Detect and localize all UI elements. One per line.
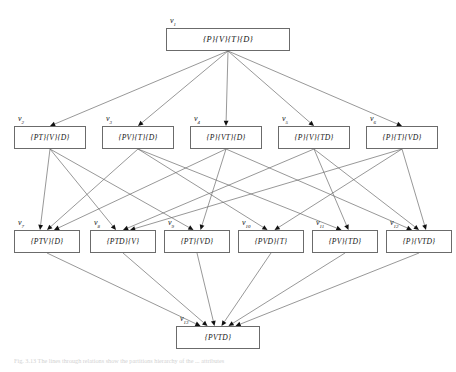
node-v2-text: {PT}{V}{D} [30, 133, 69, 142]
node-label-v6: v6 [370, 115, 376, 126]
node-label-v6-index: 6 [374, 120, 376, 125]
node-v10-text: {PVD}{T} [255, 237, 288, 246]
node-v7-text: {PTV}{D} [31, 237, 64, 246]
node-v8: {PTD}{V} [90, 230, 156, 253]
edge-layer [0, 0, 456, 372]
node-label-v13: v13 [180, 315, 189, 326]
node-v3-text: {PV}{T}{D} [118, 133, 157, 142]
node-label-v9: v9 [168, 219, 174, 230]
edge-v6-to-v10 [279, 149, 402, 227]
node-label-v8: v8 [94, 219, 100, 230]
edge-v4-to-v9 [202, 149, 226, 225]
node-label-v4-index: 4 [198, 120, 200, 125]
edge-v1-to-v2 [55, 51, 228, 124]
node-v12-text: {P}{VTD} [403, 237, 436, 246]
node-label-v2-index: 2 [22, 120, 24, 125]
node-label-v10-index: 10 [246, 224, 251, 229]
edge-v1-to-v3 [142, 51, 228, 123]
edge-v1-to-v5 [228, 51, 310, 123]
node-v12: {P}{VTD} [386, 230, 452, 253]
node-label-v13-index: 13 [184, 320, 189, 325]
node-v4-text: {P}{VT}{D} [206, 133, 245, 142]
node-v8-text: {PTD}{V} [107, 237, 140, 246]
node-v5-text: {P}{V}{TD} [294, 133, 333, 142]
node-v11: {PV}{TD} [312, 230, 378, 253]
node-v4: {P}{VT}{D} [190, 126, 262, 149]
figure-caption: Fig. 3.13 The lines through relations sh… [14, 357, 444, 365]
node-label-v11: v11 [316, 219, 324, 230]
node-v9-text: {PT}{VD} [181, 237, 214, 246]
node-v6: {P}{T}{VD} [366, 126, 438, 149]
node-v1: {P}{V}{T}{D} [166, 28, 290, 51]
node-v5: {P}{V}{TD} [278, 126, 350, 149]
node-label-v8-index: 8 [98, 224, 100, 229]
edge-v11-to-v13 [233, 253, 345, 323]
lattice-diagram: {P}{V}{T}{D}v1{PT}{V}{D}v2{PV}{T}{D}v3{P… [0, 0, 456, 372]
edge-v6-to-v8 [135, 149, 402, 229]
edge-v2-to-v7 [41, 149, 50, 225]
node-label-v5: v5 [282, 115, 288, 126]
node-label-v5-index: 5 [286, 120, 288, 125]
edge-v1-to-v6 [228, 51, 397, 124]
node-label-v1-index: 1 [174, 22, 176, 27]
edge-v4-to-v12 [226, 149, 407, 228]
node-v9: {PT}{VD} [164, 230, 230, 253]
edge-v3-to-v11 [138, 149, 337, 228]
node-label-v11-index: 11 [320, 224, 325, 229]
edge-v6-to-v12 [402, 149, 425, 225]
node-v10: {PVD}{T} [238, 230, 304, 253]
edge-v5-to-v8 [128, 149, 314, 228]
edge-v3-to-v7 [51, 149, 138, 227]
node-label-v1: v1 [170, 17, 176, 28]
node-label-v4: v4 [194, 115, 200, 126]
node-v13-text: {PVTD} [205, 333, 231, 342]
node-label-v10: v10 [242, 219, 251, 230]
node-v2: {PT}{V}{D} [14, 126, 86, 149]
node-v6-text: {P}{T}{VD} [382, 133, 421, 142]
edge-v10-to-v13 [224, 253, 271, 322]
edge-v9-to-v13 [197, 253, 213, 321]
node-label-v12: v12 [390, 219, 399, 230]
node-label-v7-index: 7 [22, 224, 24, 229]
node-label-v3: v3 [106, 115, 112, 126]
edge-v12-to-v13 [240, 253, 419, 324]
node-label-v2: v2 [18, 115, 24, 126]
edge-v7-to-v13 [47, 253, 196, 324]
node-label-v9-index: 9 [172, 224, 174, 229]
node-v1-text: {P}{V}{T}{D} [203, 35, 253, 44]
edge-v1-to-v4 [226, 51, 228, 121]
node-v3: {PV}{T}{D} [102, 126, 174, 149]
node-v13: {PVTD} [176, 326, 260, 349]
node-label-v3-index: 3 [110, 120, 112, 125]
edge-v2-to-v8 [50, 149, 113, 226]
node-label-v7: v7 [18, 219, 24, 230]
node-v7: {PTV}{D} [14, 230, 80, 253]
edge-v5-to-v12 [314, 149, 415, 227]
edge-v8-to-v13 [123, 253, 204, 323]
node-label-v12-index: 12 [394, 224, 399, 229]
node-v11-text: {PV}{TD} [329, 237, 362, 246]
